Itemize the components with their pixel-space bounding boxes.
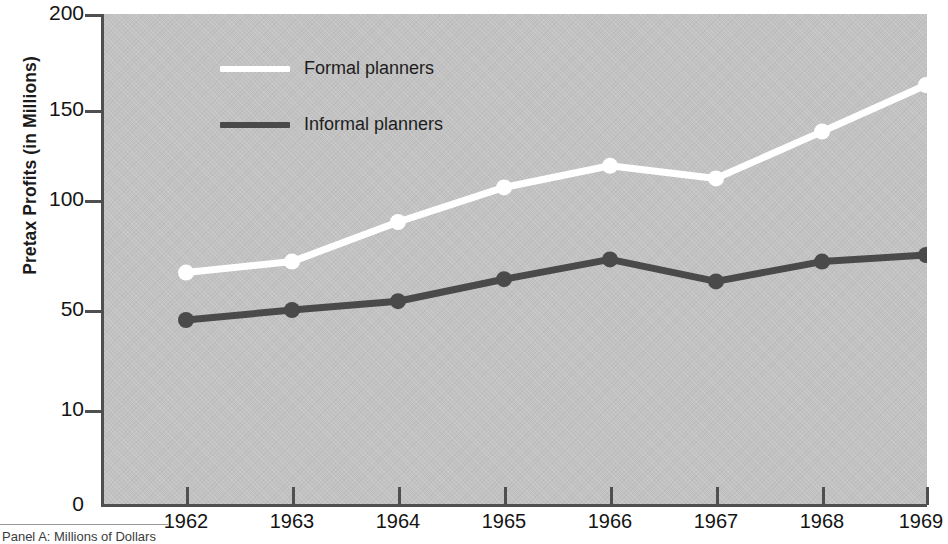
data-point [284,302,300,318]
data-point [496,179,512,195]
x-tick-text: 1965 [462,510,546,533]
plot-area: Formal planners Informal planners [103,14,927,505]
data-point [178,312,194,328]
data-point [284,254,300,270]
y-tick-text: 10 [22,397,84,421]
x-tick-mark-1963 [292,487,295,505]
data-point [708,273,724,289]
x-axis-spine [101,504,927,507]
x-tick-text: 1966 [568,510,652,533]
y-tick-text: 50 [22,297,84,321]
x-tick-text: 1967 [674,510,758,533]
y-tick-mark-100 [85,200,104,203]
data-point [390,293,406,309]
footer-caption: Panel A: Millions of Dollars [2,529,156,544]
data-point [814,124,830,140]
x-tick-text: 1963 [250,510,334,533]
x-tick-mark-1967 [716,487,719,505]
y-tick-text: 200 [22,1,84,25]
data-point [918,247,927,263]
y-tick-text: 100 [22,187,84,211]
series-markers-formal-planners [178,77,927,281]
data-point [602,158,618,174]
footer-divider [0,524,168,525]
y-tick-mark-200 [85,14,104,17]
data-point [814,254,830,270]
y-tick-mark-50 [85,310,104,313]
data-point [602,251,618,267]
x-tick-mark-1968 [822,487,825,505]
x-tick-mark-1965 [504,487,507,505]
y-tick-text: 0 [22,492,84,516]
y-axis-title: Pretax Profits (in Millions) [20,0,41,346]
x-tick-text: 1962 [144,510,228,533]
y-tick-text: 150 [22,97,84,121]
x-tick-mark-1964 [398,487,401,505]
x-tick-mark-1966 [610,487,613,505]
y-tick-mark-150 [85,110,104,113]
data-point [918,77,927,93]
y-tick-mark-10 [85,410,104,413]
data-point [708,170,724,186]
x-tick-mark-1969 [926,487,929,505]
data-point [390,214,406,230]
plot-markers-svg [103,14,927,505]
x-tick-text: 1968 [780,510,864,533]
y-axis-spine [101,14,104,507]
x-tick-text: 1964 [356,510,440,533]
data-point [178,265,194,281]
chart-figure: Pretax Profits (in Millions) Formal plan… [0,0,948,544]
x-tick-mark-1962 [186,487,189,505]
x-tick-text: 1969 [879,510,948,533]
data-point [496,271,512,287]
